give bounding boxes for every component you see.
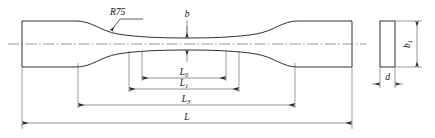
dimension-L3: L3 [78,94,295,105]
technical-drawing: R75 b [0,0,435,138]
d-label: d [385,72,390,82]
dimension-L0: L0 [142,67,226,78]
cross-section-view: b1 d [372,21,422,88]
length-dimensions: L0 L1 L3 L [22,67,352,123]
engineering-drawing-canvas: R75 b [0,0,435,138]
L1-label: L1 [179,78,189,89]
b-label: b [185,9,190,19]
L-label: L [183,112,189,122]
L3-label: L3 [181,94,191,105]
cross-section-rectangle [380,21,395,67]
b1-label: b1 [402,40,413,48]
radius-leader-line [111,19,143,31]
radius-callout: R75 [109,7,143,31]
dimension-L1: L1 [129,78,239,89]
radius-label: R75 [109,7,126,17]
dimension-b1-grip-width: b1 [396,21,422,67]
dimension-L-total: L [22,112,352,123]
dimension-b-gauge-width: b [185,9,190,62]
L0-label: L0 [179,67,189,78]
dimension-d-thickness: d [372,68,403,88]
